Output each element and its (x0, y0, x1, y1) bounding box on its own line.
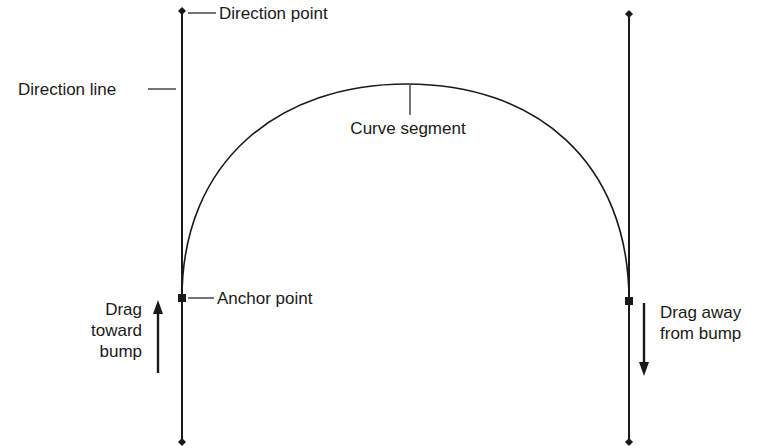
curve-segment-label: Curve segment (338, 118, 478, 139)
drag-away-line-2: from bump (660, 323, 741, 344)
direction-point-bottom-left[interactable] (178, 438, 186, 446)
bezier-diagram (0, 0, 778, 448)
down-arrow-icon (639, 303, 649, 376)
drag-toward-line-2: toward (60, 320, 142, 341)
anchor-point-label: Anchor point (217, 288, 312, 309)
drag-toward-line-1: Drag (60, 299, 142, 320)
drag-away-label: Drag away from bump (660, 302, 741, 344)
up-arrow-icon (153, 300, 163, 373)
direction-point-top-left[interactable] (178, 7, 186, 15)
drag-away-line-1: Drag away (660, 302, 741, 323)
curve-segment[interactable] (182, 84, 629, 301)
drag-toward-label: Drag toward bump (60, 299, 142, 362)
direction-point-top-right[interactable] (625, 10, 633, 18)
drag-toward-line-3: bump (60, 341, 142, 362)
direction-point-bottom-right[interactable] (625, 438, 633, 446)
direction-line-label: Direction line (18, 79, 116, 100)
direction-point-label: Direction point (219, 3, 328, 24)
anchor-point-left[interactable] (178, 294, 186, 302)
anchor-point-right[interactable] (625, 297, 633, 305)
